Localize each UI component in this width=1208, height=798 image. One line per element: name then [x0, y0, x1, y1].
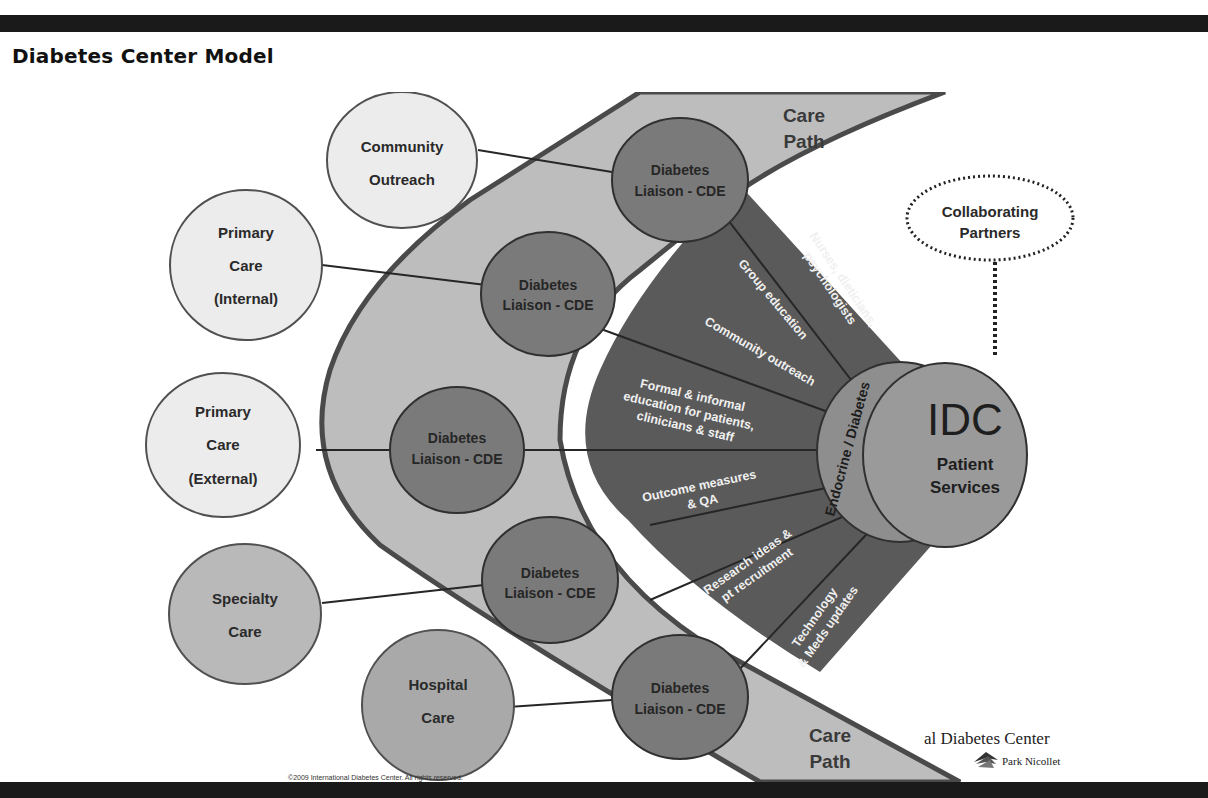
outer-node-primary-care-external: Primary Care (External)	[146, 373, 300, 517]
svg-text:Partners: Partners	[960, 224, 1021, 241]
svg-text:Diabetes: Diabetes	[651, 680, 710, 696]
svg-text:Liaison - CDE: Liaison - CDE	[411, 451, 502, 467]
svg-text:Liaison - CDE: Liaison - CDE	[502, 297, 593, 313]
svg-text:(External): (External)	[188, 470, 257, 487]
logo-text: al Diabetes Center	[924, 729, 1050, 749]
svg-text:Liaison - CDE: Liaison - CDE	[634, 701, 725, 717]
svg-text:(Internal): (Internal)	[214, 290, 278, 307]
diabetes-center-diagram: Community Outreach Primary Care (Interna…	[0, 0, 1208, 798]
svg-text:Diabetes: Diabetes	[651, 162, 710, 178]
svg-text:Services: Services	[930, 478, 1000, 497]
svg-text:Collaborating: Collaborating	[942, 203, 1039, 220]
svg-text:Diabetes: Diabetes	[521, 565, 580, 581]
liaison-node-5: Diabetes Liaison - CDE	[612, 635, 748, 759]
svg-text:Outreach: Outreach	[369, 171, 435, 188]
svg-text:Hospital: Hospital	[408, 676, 467, 693]
svg-text:Care: Care	[421, 709, 454, 726]
svg-text:Diabetes: Diabetes	[428, 430, 487, 446]
liaison-node-1: Diabetes Liaison - CDE	[612, 118, 748, 242]
svg-text:Primary: Primary	[195, 403, 252, 420]
svg-text:Care: Care	[228, 623, 261, 640]
svg-text:Patient: Patient	[937, 455, 994, 474]
footer-bar	[0, 782, 1208, 798]
collaborating-partners: Collaborating Partners	[907, 176, 1073, 260]
svg-text:Diabetes: Diabetes	[519, 277, 578, 293]
svg-text:Liaison - CDE: Liaison - CDE	[634, 183, 725, 199]
svg-text:Path: Path	[783, 131, 824, 152]
park-nicollet-text: Park Nicollet	[1002, 755, 1060, 767]
svg-text:Community: Community	[361, 138, 444, 155]
svg-text:Path: Path	[809, 751, 850, 772]
svg-text:IDC: IDC	[927, 395, 1003, 444]
svg-text:Care: Care	[206, 436, 239, 453]
outer-node-hospital-care: Hospital Care	[362, 630, 514, 780]
svg-text:Care: Care	[783, 105, 825, 126]
liaison-node-4: Diabetes Liaison - CDE	[482, 517, 618, 643]
svg-text:Care: Care	[809, 725, 851, 746]
svg-text:Primary: Primary	[218, 224, 275, 241]
svg-text:Care: Care	[229, 257, 262, 274]
liaison-node-2: Diabetes Liaison - CDE	[481, 232, 615, 356]
outer-node-specialty-care: Specialty Care	[169, 544, 321, 684]
liaison-node-3: Diabetes Liaison - CDE	[390, 387, 524, 513]
svg-text:Specialty: Specialty	[212, 590, 279, 607]
park-nicollet-logo-icon	[972, 750, 1000, 770]
outer-node-primary-care-internal: Primary Care (Internal)	[170, 190, 322, 340]
copyright-text: ©2009 International Diabetes Center. All…	[288, 774, 463, 781]
outer-node-community-outreach: Community Outreach	[327, 92, 477, 228]
svg-text:Liaison - CDE: Liaison - CDE	[504, 585, 595, 601]
